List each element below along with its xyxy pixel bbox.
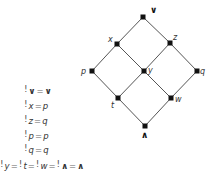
symbol: ∨ — [29, 86, 36, 96]
equals-sign: = — [28, 161, 35, 171]
edge-top-x — [117, 17, 143, 44]
node-label-bottom: ∧ — [141, 130, 148, 140]
equation-row: !y=!t=!w=!∧=∧ — [0, 161, 84, 171]
node-label-x: x — [107, 35, 113, 44]
equation-row: !x=p — [24, 101, 48, 111]
bang-operator: ! — [19, 159, 23, 169]
symbol: q — [43, 145, 48, 155]
equals-sign: = — [37, 86, 44, 96]
node-label-z: z — [172, 33, 178, 42]
node-t — [116, 96, 121, 101]
edge-w-bottom — [145, 98, 171, 126]
symbol: ∧ — [61, 161, 68, 171]
node-y — [142, 69, 147, 74]
equals-sign: = — [35, 131, 42, 141]
bang-operator: ! — [24, 143, 28, 153]
lattice-nodes — [90, 15, 200, 129]
symbol: q — [42, 116, 47, 126]
symbol: p — [29, 131, 34, 141]
bang-operator: ! — [24, 114, 28, 124]
equation-row: !p=p — [24, 131, 49, 141]
edge-z-q — [170, 43, 197, 71]
equals-sign: = — [11, 161, 18, 171]
symbol: p — [43, 101, 48, 111]
node-label-top: ∨ — [150, 5, 157, 15]
symbol: ∨ — [45, 86, 52, 96]
edge-p-t — [92, 71, 118, 98]
node-z — [168, 41, 173, 46]
edge-top-z — [143, 17, 170, 43]
equals-sign: = — [69, 161, 76, 171]
symbol: q — [29, 145, 34, 155]
node-p — [90, 69, 95, 74]
edge-q-w — [171, 71, 197, 98]
bang-operator: ! — [57, 159, 61, 169]
equals-sign: = — [48, 161, 55, 171]
node-label-w: w — [175, 95, 182, 104]
symbol: w — [40, 161, 47, 171]
symbol: ∧ — [77, 161, 84, 171]
edge-y-w — [144, 71, 171, 98]
node-label-p: p — [80, 67, 86, 76]
equation-row: !∨=∨ — [24, 86, 52, 96]
node-bottom — [143, 124, 148, 129]
node-q — [195, 69, 200, 74]
bang-operator: ! — [24, 84, 28, 94]
equals-sign: = — [35, 101, 42, 111]
equation-row: !q=q — [24, 145, 49, 155]
node-x — [115, 42, 120, 47]
symbol: t — [23, 161, 26, 171]
equals-sign: = — [34, 116, 41, 126]
node-top — [141, 15, 146, 20]
symbol: z — [29, 116, 33, 126]
bang-operator: ! — [24, 99, 28, 109]
equals-sign: = — [35, 145, 42, 155]
symbol: p — [43, 131, 48, 141]
node-label-q: q — [200, 67, 205, 76]
node-w — [169, 96, 174, 101]
bang-operator: ! — [24, 129, 28, 139]
edge-y-t — [118, 71, 144, 98]
edge-x-p — [92, 44, 117, 71]
bang-operator: ! — [36, 159, 40, 169]
symbol: y — [5, 161, 10, 171]
bang-operator: ! — [0, 159, 4, 169]
edge-t-bottom — [118, 98, 145, 126]
edge-x-y — [117, 44, 144, 71]
symbol: x — [29, 101, 34, 111]
node-label-t: t — [111, 101, 115, 110]
node-label-y: y — [147, 66, 153, 75]
equation-row: !z=q — [24, 116, 48, 126]
